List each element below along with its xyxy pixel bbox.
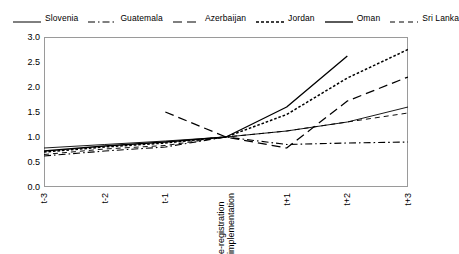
x-axis: t-3t-2t-1e-registrationimplementationt+1… xyxy=(44,187,408,249)
y-tick-label: 0.5 xyxy=(2,157,40,167)
legend-label-2: Azerbaijan xyxy=(205,13,246,23)
legend-item-5[interactable]: Sri Lanka xyxy=(389,13,459,23)
line-solid-icon xyxy=(12,13,42,23)
x-tick-label: t+1 xyxy=(282,193,292,206)
x-tick-label: t+2 xyxy=(342,193,352,206)
chart-legend: Slovenia Guatemala Azerbaijan Jordan Oma… xyxy=(0,10,439,26)
plot-area xyxy=(44,37,408,187)
series-line-slovenia xyxy=(44,107,408,148)
legend-item-0[interactable]: Slovenia xyxy=(12,13,78,23)
y-tick-label: 0.0 xyxy=(2,182,40,192)
x-tick-label: t-2 xyxy=(100,193,110,204)
series-line-azerbaijan xyxy=(165,77,408,148)
legend-label-0: Slovenia xyxy=(45,13,78,23)
line-med-dash-icon xyxy=(389,13,419,23)
legend-label-5: Sri Lanka xyxy=(422,13,459,23)
y-axis: 0.00.51.01.52.02.53.0 xyxy=(0,30,40,194)
legend-label-1: Guatemala xyxy=(120,13,162,23)
y-tick-label: 1.5 xyxy=(2,107,40,117)
legend-item-1[interactable]: Guatemala xyxy=(87,13,162,23)
line-dotted-icon xyxy=(255,13,285,23)
x-tick-label: t+3 xyxy=(403,193,413,206)
y-tick-label: 3.0 xyxy=(2,32,40,42)
legend-item-3[interactable]: Jordan xyxy=(255,13,315,23)
plot-border xyxy=(45,38,408,187)
y-tick-label: 2.5 xyxy=(2,57,40,67)
x-tick-label: e-registrationimplementation xyxy=(216,193,236,254)
line-dash-dot-icon xyxy=(87,13,117,23)
x-tick-label: t-3 xyxy=(39,193,49,204)
legend-item-4[interactable]: Oman xyxy=(324,13,381,23)
legend-item-2[interactable]: Azerbaijan xyxy=(172,13,246,23)
line-solid-bold-icon xyxy=(324,13,354,23)
legend-label-4: Oman xyxy=(357,13,381,23)
line-long-dash-icon xyxy=(172,13,202,23)
y-tick-label: 2.0 xyxy=(2,82,40,92)
y-tick-label: 1.0 xyxy=(2,132,40,142)
series-line-sri-lanka xyxy=(44,113,408,155)
legend-label-3: Jordan xyxy=(288,13,315,23)
x-tick-label: t-1 xyxy=(160,193,170,204)
plot-svg xyxy=(44,37,408,187)
